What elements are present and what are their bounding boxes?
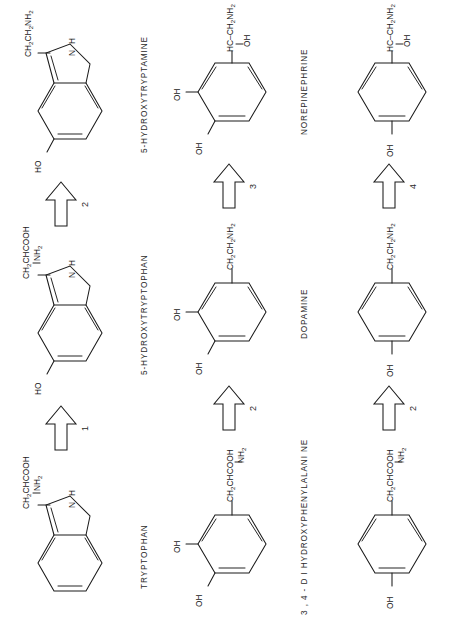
structure-tyrosine: OH CH2CHCOOH NH2 <box>345 473 445 593</box>
atom-h-label: H <box>67 38 77 44</box>
atom-h-label: H <box>67 490 77 496</box>
dopa-amino-bond <box>231 447 247 471</box>
structure-dopamine: OH OH CH2CH2NH2 <box>185 241 285 361</box>
arrow-label-6: 4 <box>408 184 418 189</box>
compound-name-dopa: 3 , 4 - D I HYDROXYPHENYLALANI NE <box>300 439 309 615</box>
tryptophan-side-chain-bond <box>28 483 54 513</box>
ne-oh-label-2: OH <box>173 88 182 101</box>
tyramine-oh-label: OH <box>386 364 395 377</box>
5htp-side-chain-bond <box>28 253 54 283</box>
dopa-oh-label-1: OH <box>195 594 204 607</box>
serotonin-side-chain-bond <box>30 31 54 61</box>
figure-rotation-wrapper: N H CH2CHCOOH NH2 TRYPTOPHAN 1 N H <box>0 0 457 627</box>
octopamine-oh-label: OH <box>386 144 395 157</box>
arrow-label-1: 1 <box>80 426 90 431</box>
structure-norepinephrine: OH OH HC–CH2NH2 OH <box>185 21 285 141</box>
arrow-label-3: 2 <box>248 406 258 411</box>
dopamine-oh-label-2: OH <box>173 308 182 321</box>
structure-octopamine: OH HC–CH2NH2 OH <box>345 21 445 141</box>
arrow-label-5: 2 <box>408 406 418 411</box>
compound-name-5-hydroxytryptamine: 5-HYDROXYTRYPTAMINE <box>140 36 149 153</box>
hydroxy-substituent-label: HO <box>34 382 43 395</box>
atom-n-label: N <box>67 272 77 278</box>
structure-5-hydroxytryptophan: N H HO CH2CHCOOH NH2 <box>20 259 130 379</box>
arrow-right-icon <box>212 385 246 431</box>
compound-name-tryptophan: TRYPTOPHAN <box>140 524 149 589</box>
arrow-right-icon <box>372 163 406 209</box>
dopa-oh-label-2: OH <box>173 540 182 553</box>
structure-dopa: OH OH CH2CHCOOH NH2 <box>185 473 285 593</box>
structure-tyramine: OH CH2CH2NH2 <box>345 241 445 361</box>
arrow-right-icon <box>44 181 78 227</box>
arrow-dopamine-to-norepinephrine: 3 <box>212 163 246 209</box>
atom-n-label: N <box>67 50 77 56</box>
compound-name-dopamine: DOPAMINE <box>300 289 309 339</box>
ne-hydroxyl-bond <box>232 29 248 49</box>
structure-5-hydroxytryptamine: N H HO CH2CH2NH2 <box>20 32 130 157</box>
ne-oh-label-1: OH <box>195 142 204 155</box>
arrow-label-2: 2 <box>80 202 90 207</box>
dopamine-oh-label-1: OH <box>195 362 204 375</box>
arrow-right-icon <box>372 385 406 431</box>
arrow-tryptophan-to-5htp: 1 <box>44 405 78 451</box>
hydroxy-substituent-label: HO <box>34 160 43 173</box>
tyramine-side-chain: CH2CH2NH2 <box>386 223 396 270</box>
arrow-dopa-to-dopamine: 2 <box>212 385 246 431</box>
atom-h-label: H <box>67 260 77 266</box>
arrow-label-4: 3 <box>248 184 258 189</box>
arrow-5htp-to-serotonin: 2 <box>44 181 78 227</box>
dopamine-side-chain: CH2CH2NH2 <box>226 223 236 270</box>
arrow-right-icon <box>44 405 78 451</box>
tyrosine-oh-label: OH <box>386 596 395 609</box>
compound-name-norepinephrine: NOREPINEPHRINE <box>300 49 309 135</box>
tyrosine-amino-bond <box>391 447 407 471</box>
arrow-tyramine-to-octopamine: 4 <box>372 163 406 209</box>
atom-n-label: N <box>67 502 77 508</box>
arrow-right-icon <box>212 163 246 209</box>
arrow-tyrosine-to-tyramine: 2 <box>372 385 406 431</box>
structure-tryptophan: N H CH2CHCOOH NH2 <box>20 489 130 609</box>
neurotransmitter-pathway-figure: N H CH2CHCOOH NH2 TRYPTOPHAN 1 N H <box>0 0 457 627</box>
octopamine-hydroxyl-bond <box>392 29 408 49</box>
compound-name-5-hydroxytryptophan: 5-HYDROXYTRYPTOPHAN <box>140 254 149 375</box>
